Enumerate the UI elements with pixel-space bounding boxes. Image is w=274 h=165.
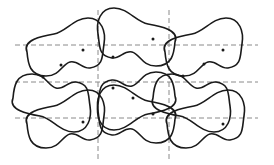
cell-dot [82, 121, 85, 124]
column-left [12, 18, 104, 148]
cell-dot [60, 64, 63, 67]
blob-cell [98, 72, 176, 130]
cell-dot [152, 113, 155, 116]
cell-dot [112, 56, 115, 59]
column-right [152, 18, 244, 148]
blob-cell [98, 85, 176, 143]
cell-dot [182, 75, 185, 78]
cell-dot [203, 63, 206, 66]
blob-cell [98, 8, 176, 66]
cell-dot [112, 87, 115, 90]
blob-cell [166, 90, 244, 148]
cell-dot [152, 38, 155, 41]
blob-cell [164, 18, 242, 76]
blob-cell [12, 74, 90, 132]
blob-cell [26, 90, 104, 148]
blob-cell [152, 74, 230, 132]
cell-dot [82, 49, 85, 52]
blob-cell [26, 18, 104, 76]
tiling-diagram [0, 0, 274, 165]
cell-dot [222, 123, 225, 126]
cell-dot [132, 97, 135, 100]
cell-dot [42, 76, 45, 79]
cell-dot [222, 49, 225, 52]
